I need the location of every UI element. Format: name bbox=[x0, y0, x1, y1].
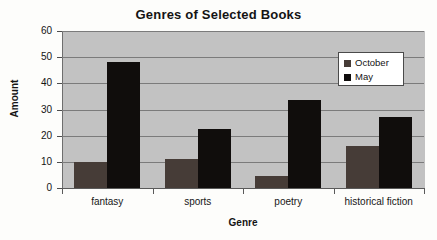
x-axis-category-label: poetry bbox=[243, 196, 334, 207]
y-axis-tick-label: 40 bbox=[18, 78, 52, 88]
x-axis-category-label: fantasy bbox=[62, 196, 153, 207]
legend-item-may: May bbox=[344, 70, 373, 84]
y-axis-tick-label: 0 bbox=[18, 183, 52, 193]
x-axis-category-label: sports bbox=[153, 196, 244, 207]
bar-may-sports bbox=[198, 129, 231, 188]
x-axis-tick-mark bbox=[153, 188, 154, 194]
bar-chart-figure: Genres of Selected Books Amount 01020304… bbox=[0, 0, 437, 240]
x-axis-tick-mark bbox=[62, 188, 63, 194]
bar-october-fantasy bbox=[74, 162, 107, 188]
legend-item-october: October bbox=[344, 56, 389, 70]
chart-title: Genres of Selected Books bbox=[0, 7, 437, 22]
bar-october-sports bbox=[165, 159, 198, 188]
bar-may-poetry bbox=[288, 100, 321, 188]
bar-may-fantasy bbox=[107, 62, 140, 188]
x-axis-tick-mark bbox=[243, 188, 244, 194]
y-axis-tick-label: 60 bbox=[18, 26, 52, 36]
x-axis-tick-mark bbox=[334, 188, 335, 194]
legend-label-may: May bbox=[355, 72, 373, 82]
legend-label-october: October bbox=[355, 58, 389, 68]
y-axis-tick-label: 10 bbox=[18, 157, 52, 167]
x-axis-category-label: historical fiction bbox=[334, 196, 425, 207]
bar-october-poetry bbox=[255, 176, 288, 188]
x-axis-tick-mark bbox=[424, 188, 425, 194]
legend: October May bbox=[338, 52, 404, 86]
y-axis-title: Amount bbox=[9, 64, 20, 134]
bar-may-historical-fiction bbox=[379, 117, 412, 188]
y-axis-tick-label: 30 bbox=[18, 105, 52, 115]
y-axis-tick-label: 20 bbox=[18, 131, 52, 141]
bar-october-historical-fiction bbox=[346, 146, 379, 188]
y-axis-tick-label: 50 bbox=[18, 52, 52, 62]
legend-swatch-may bbox=[344, 74, 351, 81]
legend-swatch-october bbox=[344, 60, 351, 67]
x-axis-title: Genre bbox=[62, 217, 424, 228]
